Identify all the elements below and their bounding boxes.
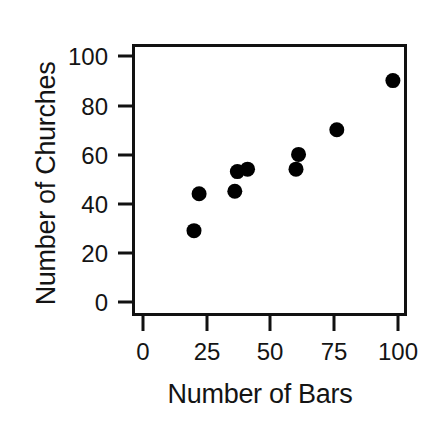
data-point	[227, 184, 242, 199]
scatter-plot-figure: Number of Churches Number of Bars 100 80…	[0, 0, 438, 430]
data-point	[291, 147, 306, 162]
y-tick-marks	[118, 56, 134, 302]
data-point	[289, 162, 304, 177]
data-point-group	[187, 73, 401, 238]
data-point	[385, 73, 400, 88]
data-point	[187, 223, 202, 238]
data-point	[329, 122, 344, 137]
data-point	[240, 162, 255, 177]
plot-canvas	[0, 0, 438, 430]
data-point	[192, 186, 207, 201]
x-tick-marks	[143, 314, 398, 331]
axes-frame	[134, 46, 406, 315]
